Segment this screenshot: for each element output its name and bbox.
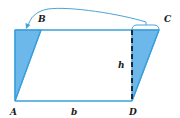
label-B: B bbox=[37, 14, 46, 24]
label-D: D bbox=[128, 107, 137, 117]
bracket bbox=[132, 25, 159, 30]
label-h: h bbox=[118, 60, 125, 70]
label-A: A bbox=[9, 107, 17, 117]
arrowhead-icon bbox=[26, 23, 31, 29]
parallelogram-diagram: B C A D b h bbox=[0, 0, 180, 118]
label-b: b bbox=[71, 107, 77, 117]
label-C: C bbox=[164, 14, 172, 24]
move-arrow bbox=[28, 8, 146, 26]
